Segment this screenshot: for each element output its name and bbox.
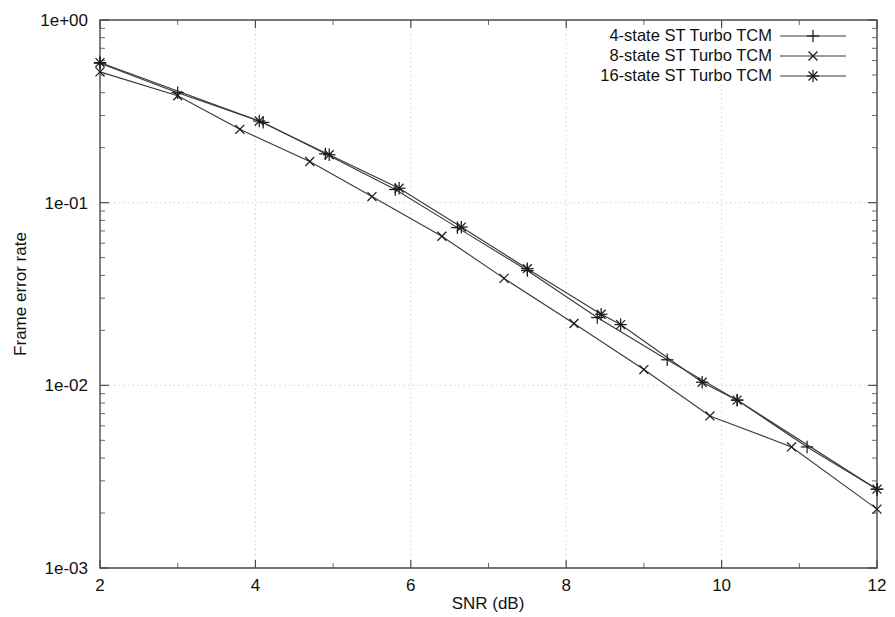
x-tick-label: 6 — [406, 576, 415, 595]
plot-background — [0, 0, 895, 617]
y-tick-label: 1e-03 — [45, 559, 88, 578]
frame-error-rate-plot: 24681012 1e+001e-011e-021e-03 SNR (dB) F… — [0, 0, 895, 617]
chart-figure: 24681012 1e+001e-011e-021e-03 SNR (dB) F… — [0, 0, 895, 617]
legend-label: 8-state ST Turbo TCM — [609, 46, 772, 64]
x-axis-title: SNR (dB) — [452, 594, 525, 613]
y-tick-label: 1e-02 — [45, 376, 88, 395]
y-tick-label: 1e+00 — [40, 11, 88, 30]
y-axis-title: Frame error rate — [11, 232, 30, 356]
y-tick-label: 1e-01 — [45, 194, 88, 213]
x-tick-label: 2 — [95, 576, 104, 595]
legend-label: 4-state ST Turbo TCM — [609, 26, 772, 44]
x-tick-label: 10 — [712, 576, 731, 595]
x-tick-label: 4 — [251, 576, 260, 595]
legend-label: 16-state ST Turbo TCM — [600, 66, 772, 84]
x-tick-label: 8 — [561, 576, 570, 595]
x-tick-label: 12 — [868, 576, 887, 595]
